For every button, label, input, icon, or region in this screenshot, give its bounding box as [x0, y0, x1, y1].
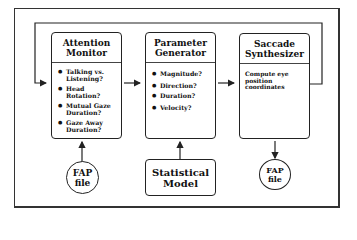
attention-monitor-box: Attention Monitor Talking vs. Listening?… — [51, 32, 122, 139]
list-item: Mutual Gaze Duration? — [57, 102, 117, 116]
node-label: Statistical — [152, 167, 209, 178]
parameter-generator-box: Parameter Generator Magnitude? Direction… — [145, 32, 216, 139]
fap-file-input-node: FAP file — [66, 161, 99, 194]
node-label: file — [266, 175, 283, 184]
title-line: Parameter — [146, 38, 215, 48]
saccade-synthesizer-title: Saccade Synthesizer — [240, 34, 309, 64]
fap-file-output-node: FAP file — [259, 159, 291, 190]
saccade-synthesizer-box: Saccade Synthesizer Compute eye position… — [239, 33, 310, 139]
title-line: Attention — [52, 38, 121, 48]
node-label: Model — [152, 178, 209, 189]
title-line: Generator — [146, 48, 215, 58]
title-line: Synthesizer — [240, 49, 309, 59]
attention-monitor-list: Talking vs. Listening? Head Rotation? Mu… — [52, 64, 121, 138]
list-item: Direction? — [151, 82, 211, 89]
list-item: Gaze Away Duration? — [57, 119, 117, 133]
parameter-generator-list: Magnitude? Direction? Duration? Velocity… — [146, 64, 215, 138]
attention-monitor-title: Attention Monitor — [52, 33, 121, 63]
list-item: Head Rotation? — [57, 85, 117, 99]
node-label: FAP — [73, 168, 93, 178]
list-item: Velocity? — [151, 104, 211, 111]
parameter-generator-title: Parameter Generator — [146, 33, 215, 63]
list-item: Magnitude? — [151, 70, 211, 77]
title-line: Monitor — [52, 48, 121, 58]
list-item: Talking vs. Listening? — [57, 68, 117, 82]
statistical-model-box: Statistical Model — [145, 159, 216, 196]
node-label: file — [73, 178, 93, 188]
list-item: Duration? — [151, 92, 211, 99]
title-line: Saccade — [240, 39, 309, 49]
saccade-synthesizer-text: Compute eye position coordinates — [240, 65, 309, 138]
